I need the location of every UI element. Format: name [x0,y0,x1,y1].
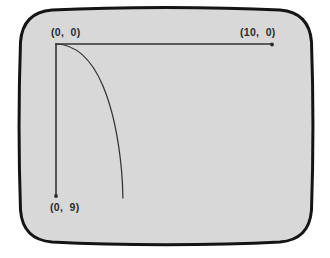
y-end-point-marker [54,194,58,198]
x-end-coordinate-label: (10, 0) [240,27,276,38]
origin-coordinate-label: (0, 0) [51,27,81,38]
x-end-point-marker [270,43,274,47]
crt-screen-figure [0,0,330,258]
y-end-coordinate-label: (0, 9) [50,202,80,213]
